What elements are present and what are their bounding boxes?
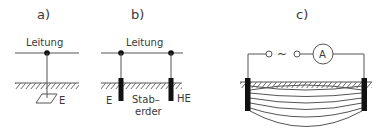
earthing-diagram: a) Leitung E b) Leitung E Stab– erder HE…	[0, 0, 381, 139]
panel-b: b) Leitung E Stab– erder HE	[101, 7, 191, 117]
panel-c-terminal-right	[294, 51, 300, 57]
panel-b-label: b)	[131, 7, 144, 22]
panel-b-line-label: Leitung	[126, 37, 163, 48]
panel-b-electrode-right-label: HE	[177, 93, 191, 104]
panel-a-line-label: Leitung	[26, 37, 63, 48]
panel-b-electrode-left-label: E	[106, 95, 112, 106]
panel-b-rod-electrode-right	[169, 78, 174, 101]
panel-c-electrode-right	[362, 78, 368, 111]
panel-c-circuit-left-wire	[248, 54, 266, 78]
panel-c-ac-source-symbol: ~	[277, 47, 287, 61]
panel-c-terminal-left	[266, 51, 272, 57]
panel-a-ground-hatch	[15, 83, 79, 89]
panel-c: c) ~ A	[240, 7, 372, 127]
panel-b-rod-electrode-left	[119, 78, 124, 101]
panel-c-current-lines	[250, 85, 362, 127]
panel-a: a) Leitung E	[15, 7, 79, 106]
panel-a-label: a)	[37, 7, 50, 22]
panel-c-circuit-right-wire	[333, 54, 364, 78]
panel-c-label: c)	[296, 7, 308, 22]
panel-c-electrode-left	[245, 78, 251, 111]
panel-b-rod-label-line1: Stab–	[132, 94, 160, 105]
panel-b-rod-label-line2: erder	[135, 106, 163, 117]
panel-a-electrode-label: E	[59, 95, 65, 106]
panel-c-ammeter-symbol: A	[319, 49, 326, 60]
